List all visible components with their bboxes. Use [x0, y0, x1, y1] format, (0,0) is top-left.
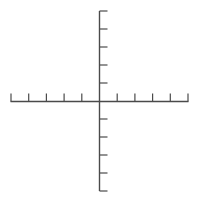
axes-svg	[0, 0, 199, 206]
coordinate-plane	[0, 0, 199, 206]
